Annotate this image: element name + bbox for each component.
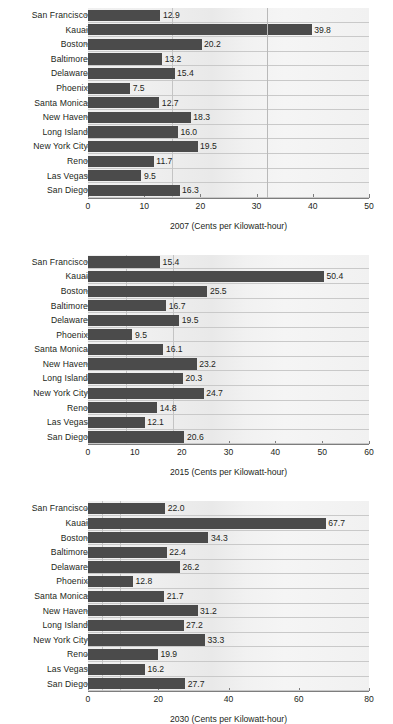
x-tick-label: 30: [224, 447, 234, 457]
row-plot-area: 31.2: [88, 604, 369, 619]
bar-value-label: 31.2: [198, 604, 217, 619]
row-separator: [88, 109, 369, 110]
row-separator: [88, 544, 369, 545]
bar: [88, 53, 162, 64]
row-separator: [88, 124, 369, 125]
bar-value-label: 19.9: [158, 647, 177, 662]
bar: [88, 271, 324, 282]
row-plot-area: 11.7: [88, 154, 369, 169]
category-label: New Haven: [43, 110, 88, 125]
row-separator: [88, 312, 369, 313]
row-separator: [88, 646, 369, 647]
row-plot-area: 33.3: [88, 633, 369, 648]
category-label: Phoenix: [56, 328, 88, 343]
category-label: Delaware: [51, 66, 88, 81]
row-plot-area: 22.4: [88, 545, 369, 560]
bar: [88, 620, 184, 631]
bar-value-label: 16.7: [166, 299, 185, 314]
row-plot-area: 24.7: [88, 386, 369, 401]
category-label: Santa Monica: [34, 589, 88, 604]
category-label: San Diego: [47, 677, 88, 692]
x-axis-ticks: 020406080: [88, 691, 369, 713]
bar-rows: San Francisco15.4Kauai50.4Boston25.5Balt…: [0, 255, 393, 445]
x-tick-label: 50: [364, 201, 374, 211]
x-tick-label: 0: [86, 694, 91, 704]
bar: [88, 300, 166, 311]
bar-value-label: 11.7: [154, 154, 173, 169]
bar: [88, 39, 202, 50]
plot-region: San Francisco15.4Kauai50.4Boston25.5Balt…: [0, 255, 393, 445]
bar: [88, 68, 175, 79]
vertical-gridline: [267, 8, 268, 198]
category-label: Las Vegas: [47, 415, 88, 430]
bar: [88, 185, 180, 196]
row-plot-area: 27.2: [88, 618, 369, 633]
x-tick-label: 60: [364, 447, 374, 457]
bar-row: Delaware26.2: [0, 560, 393, 575]
bar: [88, 518, 326, 529]
row-plot-area: 19.5: [88, 139, 369, 154]
bar-row: Las Vegas16.2: [0, 662, 393, 677]
row-separator: [88, 370, 369, 371]
row-plot-area: 21.7: [88, 589, 369, 604]
bar-value-label: 39.8: [312, 23, 331, 38]
bar-row: San Francisco12.9: [0, 8, 393, 23]
category-label: Delaware: [51, 560, 88, 575]
bar-value-label: 16.3: [180, 183, 199, 198]
row-plot-area: 16.0: [88, 125, 369, 140]
bar: [88, 156, 154, 167]
bar: [88, 286, 207, 297]
chart-panel-3: San Francisco22.0Kauai67.7Boston34.3Balt…: [0, 501, 393, 724]
bar-value-label: 15.4: [160, 255, 179, 270]
bar-value-label: 33.3: [205, 633, 224, 648]
row-plot-area: 12.7: [88, 96, 369, 111]
x-tick-label: 10: [130, 447, 140, 457]
category-label: New Haven: [43, 604, 88, 619]
x-axis-ticks: 01020304050: [88, 198, 369, 220]
bar-row: Baltimore22.4: [0, 545, 393, 560]
row-separator: [88, 429, 369, 430]
bar-row: Kauai67.7: [0, 516, 393, 531]
x-axis-title: 2015 (Cents per Kilowatt-hour): [0, 467, 393, 477]
category-label: Santa Monica: [34, 96, 88, 111]
row-plot-area: 16.7: [88, 299, 369, 314]
bar: [88, 10, 160, 21]
bar: [88, 256, 160, 267]
bar-row: Reno11.7: [0, 154, 393, 169]
category-label: New Haven: [43, 357, 88, 372]
bar-row: Las Vegas9.5: [0, 169, 393, 184]
bar-value-label: 7.5: [130, 81, 144, 96]
category-label: San Francisco: [32, 501, 88, 516]
row-plot-area: 18.3: [88, 110, 369, 125]
x-axis: 01020304050: [0, 198, 393, 220]
bar-value-label: 16.1: [163, 342, 182, 357]
row-separator: [88, 661, 369, 662]
bar-rows: San Francisco22.0Kauai67.7Boston34.3Balt…: [0, 501, 393, 691]
bar-row: New Haven18.3: [0, 110, 393, 125]
row-plot-area: 16.1: [88, 342, 369, 357]
x-tick-label: 60: [294, 694, 304, 704]
chart-panel-2: San Francisco15.4Kauai50.4Boston25.5Balt…: [0, 255, 393, 478]
category-label: New York City: [33, 386, 88, 401]
bar: [88, 388, 204, 399]
row-plot-area: 12.8: [88, 574, 369, 589]
x-tick-label: 40: [224, 694, 234, 704]
x-tick-label: 40: [271, 447, 281, 457]
x-tick-label: 50: [317, 447, 327, 457]
row-separator: [88, 443, 369, 444]
row-plot-area: 7.5: [88, 81, 369, 96]
x-tick-label: 30: [252, 201, 262, 211]
figure-page: San Francisco12.9Kauai39.8Boston20.2Balt…: [0, 8, 393, 718]
category-label: San Francisco: [32, 255, 88, 270]
category-label: San Francisco: [32, 8, 88, 23]
bar-row: Delaware15.4: [0, 66, 393, 81]
row-separator: [88, 153, 369, 154]
row-separator: [88, 588, 369, 589]
row-plot-area: 15.4: [88, 66, 369, 81]
row-plot-area: 16.3: [88, 183, 369, 198]
bar-value-label: 27.2: [184, 618, 203, 633]
bar-value-label: 16.2: [145, 662, 164, 677]
bar-value-label: 25.5: [207, 284, 226, 299]
row-plot-area: 15.4: [88, 255, 369, 270]
bar-row: Kauai39.8: [0, 23, 393, 38]
